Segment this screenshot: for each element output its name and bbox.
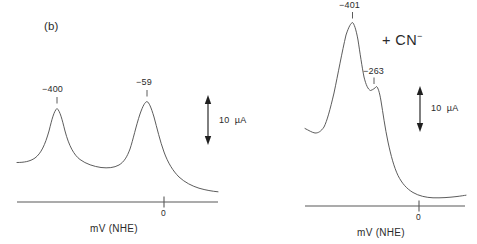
left-panel-plot xyxy=(17,90,218,208)
cyanide-annotation-text: + CN xyxy=(382,32,417,48)
left-scale-bar-arrow-up xyxy=(205,95,211,104)
voltammogram-figure: (b) −400 −59 0 mV (NHE) 10 µA −401 −263 … xyxy=(0,0,477,244)
cyanide-annotation: + CN− xyxy=(382,33,423,48)
left-scale-bar-label: 10 µA xyxy=(219,116,246,125)
right-scale-bar-label: 10 µA xyxy=(431,104,458,113)
cyanide-annotation-charge: − xyxy=(417,31,423,41)
left-panel-curve xyxy=(17,102,218,192)
right-peak2-label: −263 xyxy=(363,67,384,76)
left-zero-tick-label: 0 xyxy=(161,209,166,218)
right-scale-bar-arrow-up xyxy=(417,86,423,95)
panel-label: (b) xyxy=(44,21,58,33)
right-peak1-label: −401 xyxy=(339,1,360,10)
right-scale-bar-arrow-down xyxy=(417,123,423,132)
right-axis-label: mV (NHE) xyxy=(357,228,405,238)
left-scale-bar-arrow-down xyxy=(205,136,211,145)
left-axis-label: mV (NHE) xyxy=(90,224,138,234)
right-zero-tick-label: 0 xyxy=(416,213,421,222)
left-peak2-label: −59 xyxy=(136,78,152,87)
left-peak1-label: −400 xyxy=(42,85,63,94)
